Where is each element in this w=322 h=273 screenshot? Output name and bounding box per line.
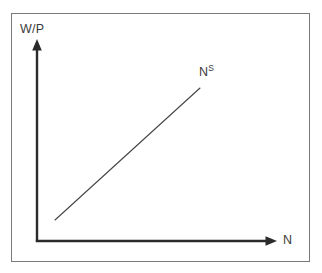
x-axis-arrowhead <box>266 236 278 246</box>
x-axis-group <box>36 236 277 246</box>
labor-supply-curve <box>55 88 200 220</box>
axes-and-curve-svg <box>0 0 322 273</box>
y-axis-arrowhead <box>32 39 42 51</box>
labor-supply-curve-label: NS <box>199 66 214 79</box>
figure-root: W/P N NS <box>0 0 322 273</box>
y-axis-group <box>32 39 42 242</box>
curve-label-base: N <box>199 65 208 79</box>
y-axis-label: W/P <box>20 23 44 36</box>
plot-area: W/P N NS <box>0 0 322 273</box>
curve-label-superscript: S <box>208 63 214 73</box>
x-axis-label: N <box>283 234 292 247</box>
